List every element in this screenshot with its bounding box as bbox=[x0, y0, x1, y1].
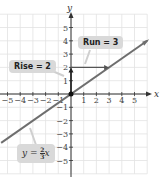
y-tick-label: 5 bbox=[63, 24, 68, 33]
y-tick-label: −4 bbox=[56, 143, 68, 152]
y-tick-label: 4 bbox=[63, 37, 68, 46]
equation-label: y = 23x bbox=[17, 144, 55, 163]
run-label: Run = 3 bbox=[78, 36, 123, 49]
y-tick-label: 1 bbox=[63, 77, 68, 86]
y-tick-label: 2 bbox=[63, 63, 68, 72]
line-series bbox=[1, 39, 149, 143]
origin-point bbox=[69, 92, 74, 97]
x-axis-arrow-icon bbox=[146, 92, 152, 97]
x-tick-label: 1 bbox=[81, 96, 86, 105]
y-tick-label: −2 bbox=[56, 117, 68, 126]
x-tick-label: −2 bbox=[40, 96, 52, 105]
y-tick-label: −3 bbox=[56, 130, 68, 139]
y-axis-label: y bbox=[66, 3, 73, 13]
x-tick-label: −5 bbox=[2, 96, 14, 105]
x-tick-label: 2 bbox=[94, 96, 99, 105]
x-tick-label: −3 bbox=[27, 96, 39, 105]
equation-prefix: y = bbox=[22, 148, 40, 158]
line-arrow-icon bbox=[142, 39, 149, 46]
rise-arrowhead-icon bbox=[69, 67, 74, 72]
x-tick-label: −4 bbox=[14, 96, 26, 105]
function-line bbox=[1, 41, 147, 143]
x-axis-label: x bbox=[154, 89, 159, 99]
equation-suffix: x bbox=[45, 148, 50, 158]
y-tick-label: 3 bbox=[63, 50, 68, 59]
x-tick-label: 4 bbox=[119, 96, 124, 105]
rise-label: Rise = 2 bbox=[9, 60, 56, 73]
y-tick-label: −5 bbox=[56, 157, 68, 166]
y-tick-label: −1 bbox=[56, 103, 68, 112]
x-tick-label: 5 bbox=[132, 96, 137, 105]
x-tick-label: 3 bbox=[107, 96, 112, 105]
run-callout-pointer bbox=[85, 50, 90, 64]
